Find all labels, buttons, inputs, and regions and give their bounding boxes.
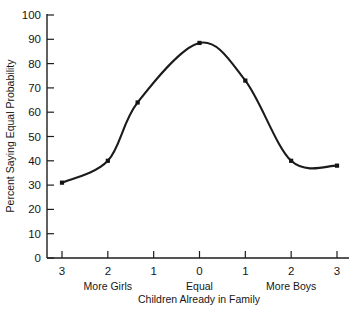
y-tick-label: 40 bbox=[28, 155, 41, 167]
x-axis-group-label: More Girls bbox=[84, 280, 132, 292]
x-axis-tick-labels: 3210123 bbox=[59, 265, 340, 277]
data-point-markers bbox=[60, 41, 339, 185]
data-series-curve bbox=[62, 43, 337, 183]
y-tick-label: 80 bbox=[28, 58, 41, 70]
y-tick-label: 90 bbox=[28, 33, 41, 45]
y-tick-label: 70 bbox=[28, 82, 41, 94]
y-tick-label: 0 bbox=[35, 252, 41, 264]
y-axis-tick-marks bbox=[47, 15, 54, 258]
data-point-marker bbox=[60, 181, 64, 185]
x-axis-title: Children Already in Family bbox=[138, 293, 261, 305]
data-point-marker bbox=[289, 159, 293, 163]
data-point-marker bbox=[197, 41, 201, 45]
y-axis-title: Percent Saying Equal Probability bbox=[4, 59, 16, 213]
x-axis-tick-marks bbox=[62, 251, 337, 258]
data-point-marker bbox=[136, 100, 140, 104]
y-tick-label: 60 bbox=[28, 106, 41, 118]
x-tick-label: 1 bbox=[150, 265, 156, 277]
data-point-marker bbox=[243, 79, 247, 83]
x-tick-label: 2 bbox=[105, 265, 111, 277]
y-tick-label: 100 bbox=[22, 9, 41, 21]
x-axis-group-label: Equal bbox=[186, 280, 213, 292]
x-axis-group-labels: More GirlsEqualMore Boys bbox=[84, 280, 317, 292]
y-tick-label: 20 bbox=[28, 203, 41, 215]
y-axis-tick-labels: 0102030405060708090100 bbox=[22, 9, 41, 264]
x-tick-label: 2 bbox=[288, 265, 294, 277]
data-point-marker bbox=[106, 159, 110, 163]
x-tick-label: 3 bbox=[59, 265, 65, 277]
x-tick-label: 3 bbox=[334, 265, 340, 277]
line-chart: 0102030405060708090100 3210123 More Girl… bbox=[0, 0, 358, 309]
chart-figure: 0102030405060708090100 3210123 More Girl… bbox=[0, 0, 358, 309]
y-tick-label: 30 bbox=[28, 179, 41, 191]
y-tick-label: 10 bbox=[28, 228, 41, 240]
data-point-marker bbox=[335, 164, 339, 168]
x-tick-label: 0 bbox=[196, 265, 202, 277]
y-tick-label: 50 bbox=[28, 131, 41, 143]
x-axis-group-label: More Boys bbox=[266, 280, 316, 292]
x-tick-label: 1 bbox=[242, 265, 248, 277]
